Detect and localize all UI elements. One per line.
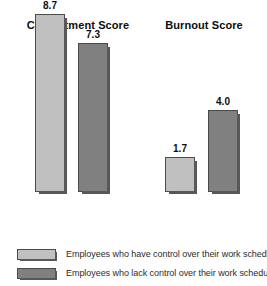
legend-label-lack-control: Employees who lack control over their wo…: [66, 268, 267, 278]
legend-swatch-have-control: [17, 249, 56, 260]
plot-area: 8.7 7.3 1.7 4.0: [0, 0, 267, 240]
legend-swatch-lack-control: [17, 268, 56, 279]
bar-shadow-bottom: [169, 191, 197, 194]
bar-commitment-have-control: [35, 14, 65, 192]
legend-swatch-shadow-bottom: [20, 259, 57, 261]
chart-legend: Employees who have control over their wo…: [17, 245, 263, 283]
legend-label-have-control: Employees who have control over their wo…: [66, 249, 267, 259]
bar-chart: Commitment Score Burnout Score 8.7 7.3 1…: [0, 0, 267, 286]
bar-burnout-lack-control: [208, 110, 238, 192]
bar-burnout-have-control: [165, 157, 195, 192]
bar-shadow-bottom: [212, 191, 240, 194]
bar-shadow-right: [194, 161, 197, 194]
bar-shadow-right: [237, 114, 240, 194]
legend-item-have-control: Employees who have control over their wo…: [17, 245, 263, 263]
legend-swatch-shadow-bottom: [20, 278, 57, 280]
legend-item-lack-control: Employees who lack control over their wo…: [17, 264, 263, 282]
bar-shadow-right: [107, 47, 110, 194]
bar-value-burnout-have-control: 1.7: [157, 143, 203, 154]
bar-commitment-lack-control: [78, 43, 108, 192]
bar-shadow-right: [64, 18, 67, 194]
bar-value-commitment-lack-control: 7.3: [70, 29, 116, 40]
bar-value-burnout-lack-control: 4.0: [200, 96, 246, 107]
bar-shadow-bottom: [82, 191, 110, 194]
bar-shadow-bottom: [39, 191, 67, 194]
bar-value-commitment-have-control: 8.7: [27, 0, 73, 11]
